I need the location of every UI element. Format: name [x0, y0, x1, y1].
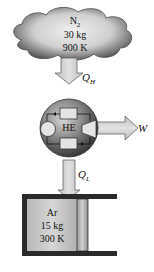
work-out-label: W	[138, 123, 147, 134]
heat-exchanger-top-icon	[60, 108, 77, 119]
hot-reservoir-temperature: 900 K	[40, 43, 110, 53]
heat-engine-label: HE	[58, 123, 80, 133]
piston	[77, 199, 88, 251]
heat-exchanger-bottom-icon	[60, 138, 77, 149]
heat-out-arrow	[58, 160, 80, 199]
pump-icon	[41, 122, 56, 137]
cold-reservoir-temperature: 300 K	[27, 234, 77, 244]
cold-reservoir-substance: Ar	[27, 208, 77, 218]
cold-reservoir-mass: 15 kg	[27, 221, 77, 231]
hot-reservoir-mass: 30 kg	[40, 30, 110, 40]
heat-engine-diagram	[0, 0, 154, 272]
hot-reservoir-substance: N2	[40, 16, 110, 29]
heat-out-label: QL	[78, 169, 90, 183]
work-out-arrow	[94, 116, 138, 140]
heat-in-arrow	[55, 58, 83, 84]
heat-in-label: QH	[82, 72, 95, 86]
